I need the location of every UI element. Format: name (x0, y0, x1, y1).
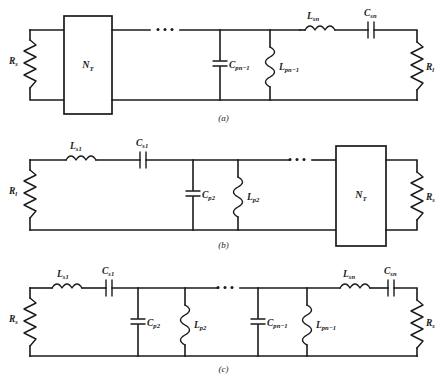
label-lpn1-c: Lpn−1 (315, 320, 336, 331)
label-cpn1-c: Cpn−1 (267, 318, 288, 329)
label-rl-b: Rl (8, 186, 17, 197)
caption-b: (b) (0, 240, 447, 250)
wire-a-csn-right (374, 30, 417, 42)
wire-b-rs-top (386, 160, 417, 172)
inductor-lpn1-c (303, 305, 312, 345)
inductor-lsn-c (340, 284, 370, 288)
label-rs-right-c: Rs (425, 318, 435, 329)
circuit-figure: NT Cpn−1 Lpn−1 (0, 0, 447, 381)
label-csn-a: Csn (364, 8, 377, 19)
label-cs1-c: Cs1 (102, 266, 114, 277)
label-cpn1-a: Cpn−1 (229, 60, 250, 71)
ellipsis-dot-c-1 (217, 286, 220, 289)
label-rl-a: Rl (425, 62, 434, 73)
label-csn-c: Csn (384, 266, 397, 277)
label-lpn1-a: Lpn−1 (278, 62, 299, 73)
ellipsis-dot-b-2 (296, 158, 299, 161)
label-lp2-c: Lp2 (193, 320, 207, 331)
caption-a: (a) (0, 113, 447, 123)
wire-c-csn-right (394, 288, 417, 300)
inductor-ls1-b (66, 156, 96, 160)
panel-a: NT Cpn−1 Lpn−1 (0, 0, 447, 130)
inductor-lsn-a (305, 26, 335, 30)
inductor-lp2-b (234, 177, 243, 217)
resistor-rl-a (411, 42, 423, 90)
label-ls1-c: Ls1 (56, 269, 69, 280)
ellipsis-dot-b-3 (303, 158, 306, 161)
label-ls1-b: Ls1 (69, 141, 82, 152)
label-rs-b: Rs (425, 192, 435, 203)
wire-b-rs-bottom (386, 220, 417, 230)
ellipsis-dot-c-3 (231, 286, 234, 289)
wire-a-rs-bottom (30, 88, 64, 100)
panel-b: Rl Ls1 Cs1 Cp2 (0, 130, 447, 256)
panel-c: Rs Ls1 Cs1 Cp2 (0, 256, 447, 381)
ellipsis-dot-a-1 (157, 28, 160, 31)
resistor-rs-right-c (411, 300, 423, 348)
label-lp2-b: Lp2 (246, 192, 260, 203)
inductor-lpn1-a (266, 47, 275, 87)
label-lsn-a: Lsn (306, 11, 319, 22)
inductor-lp2-c (181, 305, 190, 345)
label-cs1-b: Cs1 (136, 138, 148, 149)
ellipsis-dot-a-3 (171, 28, 174, 31)
resistor-rl-b (24, 170, 36, 218)
inductor-ls1-c (52, 284, 82, 288)
label-cp2-c: Cp2 (147, 318, 161, 329)
ellipsis-dot-b-1 (289, 158, 292, 161)
label-rs-a: Rs (8, 56, 18, 67)
ellipsis-dot-c-2 (224, 286, 227, 289)
caption-c: (c) (0, 364, 447, 374)
resistor-rs-b (411, 172, 423, 220)
resistor-rs-left-c (24, 298, 36, 346)
label-lsn-c: Lsn (342, 269, 355, 280)
resistor-rs-a (24, 40, 36, 88)
label-cp2-b: Cp2 (202, 190, 216, 201)
label-rs-left-c: Rs (8, 314, 18, 325)
ellipsis-dot-a-2 (164, 28, 167, 31)
